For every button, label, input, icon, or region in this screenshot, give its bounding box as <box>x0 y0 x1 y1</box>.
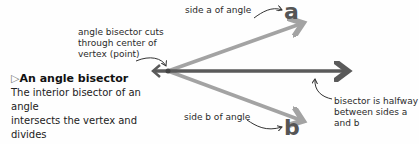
letter-b: b <box>284 117 300 139</box>
bisector-pointer-arrow-icon <box>315 79 332 99</box>
side-a-line <box>168 23 303 71</box>
caption-text: The interior bisector of an angle inters… <box>11 86 171 144</box>
caption-title: ▷An angle bisector <box>11 72 128 85</box>
side-b-pointer-arrow-icon <box>247 120 282 129</box>
bisector-note: bisector is halfway between sides a and … <box>334 96 418 129</box>
side-a-pointer-arrow-icon <box>254 9 282 18</box>
letter-a: a <box>284 1 299 23</box>
vertex-note: angle bisector cuts through center of ve… <box>78 27 164 60</box>
side-a-label: side a of angle <box>185 5 251 16</box>
side-b-label: side b of angle <box>184 112 250 123</box>
vertex-point <box>166 69 171 74</box>
